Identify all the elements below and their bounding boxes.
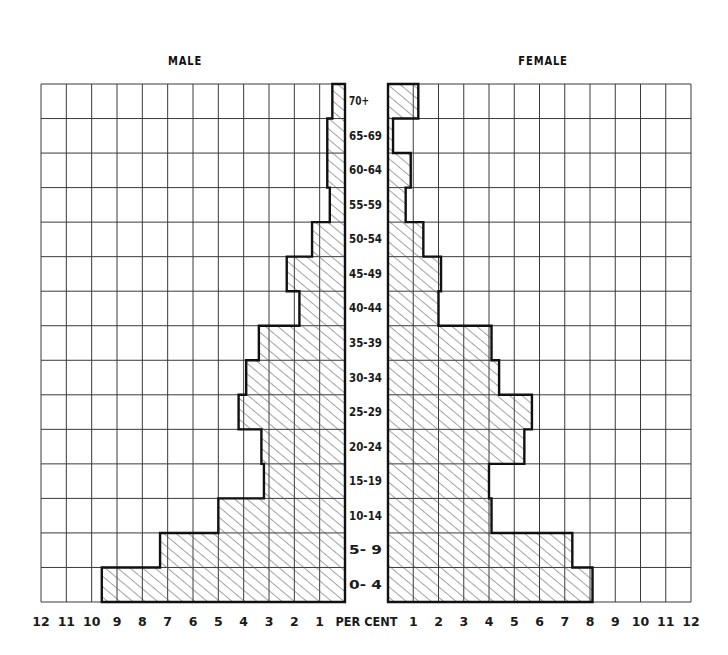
bars bbox=[102, 84, 593, 602]
x-tick-label-male: 4 bbox=[239, 614, 248, 629]
age-group-label: 0- 4 bbox=[349, 578, 382, 592]
x-tick-label-female: 4 bbox=[485, 614, 494, 629]
bar-female bbox=[388, 188, 406, 223]
age-group-label: 35-39 bbox=[349, 336, 382, 350]
bar-male bbox=[327, 119, 345, 154]
age-group-label: 50-54 bbox=[349, 232, 382, 246]
bar-female bbox=[388, 326, 492, 361]
age-group-label: 15-19 bbox=[349, 474, 382, 488]
bar-male bbox=[246, 360, 345, 395]
bar-male bbox=[287, 257, 345, 292]
x-tick-label-female: 12 bbox=[682, 614, 699, 629]
bar-male bbox=[102, 567, 345, 602]
bar-female bbox=[388, 257, 441, 292]
x-tick-label-male: 3 bbox=[265, 614, 274, 629]
bar-female bbox=[388, 429, 524, 464]
age-group-label: 60-64 bbox=[349, 163, 382, 177]
x-tick-label-female: 6 bbox=[535, 614, 544, 629]
bar-female bbox=[388, 464, 489, 499]
age-group-label: 20-24 bbox=[349, 440, 382, 454]
bar-male bbox=[299, 291, 345, 326]
population-pyramid-chart: 70+65-6960-6455-5950-5445-4940-4435-3930… bbox=[0, 0, 728, 655]
bar-female bbox=[388, 84, 418, 119]
bar-female bbox=[388, 222, 423, 257]
bar-male bbox=[261, 429, 345, 464]
x-tick-label-male: 7 bbox=[163, 614, 172, 629]
x-tick-label-male: 2 bbox=[290, 614, 299, 629]
bar-male bbox=[330, 188, 345, 223]
x-tick-label-female: 8 bbox=[586, 614, 595, 629]
bar-male bbox=[259, 326, 345, 361]
age-group-label: 45-49 bbox=[349, 267, 382, 281]
bar-male bbox=[332, 84, 345, 119]
age-group-label: 10-14 bbox=[349, 509, 382, 523]
bar-male bbox=[312, 222, 345, 257]
x-tick-label-female: 10 bbox=[632, 614, 650, 629]
bar-male bbox=[160, 533, 345, 568]
x-tick-label-female: 7 bbox=[560, 614, 569, 629]
x-tick-label-female: 9 bbox=[611, 614, 620, 629]
bar-male bbox=[218, 498, 345, 533]
age-group-label: 30-34 bbox=[349, 371, 382, 385]
bar-female bbox=[388, 533, 572, 568]
x-tick-label-male: 6 bbox=[189, 614, 198, 629]
age-group-label: 65-69 bbox=[349, 129, 382, 143]
x-tick-label-male: 9 bbox=[113, 614, 122, 629]
age-group-label: 55-59 bbox=[349, 198, 382, 212]
age-group-label: 40-44 bbox=[349, 301, 382, 315]
x-tick-label-male: 11 bbox=[58, 614, 75, 629]
x-tick-label-female: 2 bbox=[434, 614, 443, 629]
age-group-label: 70+ bbox=[349, 94, 369, 108]
x-tick-label-female: 1 bbox=[409, 614, 418, 629]
bar-female bbox=[388, 360, 499, 395]
bar-female bbox=[388, 153, 411, 188]
x-tick-label-male: 10 bbox=[83, 614, 101, 629]
x-tick-label-female: 3 bbox=[459, 614, 468, 629]
x-tick-label-male: 8 bbox=[138, 614, 147, 629]
bar-female bbox=[388, 395, 532, 430]
x-tick-label-male: 1 bbox=[315, 614, 324, 629]
x-tick-label-male: 12 bbox=[32, 614, 49, 629]
bar-female bbox=[388, 291, 439, 326]
x-axis-label: PER CENT bbox=[336, 614, 398, 629]
x-tick-label-female: 11 bbox=[657, 614, 674, 629]
x-tick-label-male: 5 bbox=[214, 614, 223, 629]
x-axis-ticks: 121110987654321123456789101112PER CENT bbox=[32, 614, 699, 629]
bar-male bbox=[264, 464, 345, 499]
age-labels: 70+65-6960-6455-5950-5445-4940-4435-3930… bbox=[349, 94, 382, 591]
bar-male bbox=[239, 395, 345, 430]
bar-male bbox=[327, 153, 345, 188]
age-group-label: 5- 9 bbox=[349, 543, 382, 557]
bar-female bbox=[388, 498, 492, 533]
age-group-label: 25-29 bbox=[349, 405, 382, 419]
bar-female bbox=[388, 567, 593, 602]
x-tick-label-female: 5 bbox=[510, 614, 519, 629]
